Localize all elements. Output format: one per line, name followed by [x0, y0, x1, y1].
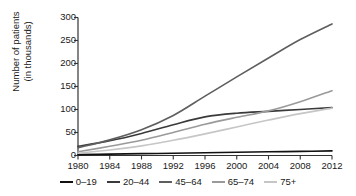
legend-line-icon: [107, 181, 120, 183]
legend-line-icon: [60, 181, 73, 183]
line-chart: Number of patients (in thousands) 050100…: [0, 0, 356, 196]
x-axis-ticks: [78, 156, 332, 160]
series-line-20-44: [78, 108, 332, 147]
series-line-65-74: [78, 91, 332, 152]
legend-item-75-[interactable]: 75+: [264, 176, 296, 187]
legend-item-label: 20–44: [123, 176, 149, 187]
series-line-75-: [78, 108, 332, 153]
chart-legend: 0–1920–4445–6465–7475+: [0, 176, 356, 187]
legend-item-label: 0–19: [76, 176, 97, 187]
legend-item-label: 75+: [280, 176, 296, 187]
legend-item-label: 65–74: [228, 176, 254, 187]
axis-lines: [78, 18, 332, 156]
legend-item-0-19[interactable]: 0–19: [60, 176, 97, 187]
legend-item-20-44[interactable]: 20–44: [107, 176, 149, 187]
legend-line-icon: [212, 181, 225, 183]
plot-area: [0, 0, 356, 196]
legend-line-icon: [264, 181, 277, 183]
legend-item-65-74[interactable]: 65–74: [212, 176, 254, 187]
legend-item-45-64[interactable]: 45–64: [159, 176, 201, 187]
legend-item-label: 45–64: [175, 176, 201, 187]
series-line-0-19: [78, 151, 332, 155]
series-line-45-64: [78, 24, 332, 148]
legend-line-icon: [159, 181, 172, 183]
data-series-lines: [78, 24, 332, 155]
